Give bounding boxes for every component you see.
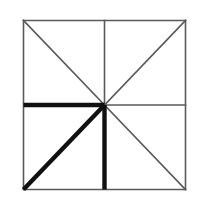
square-diagram: [0, 0, 203, 208]
figure-canvas: [0, 0, 203, 208]
